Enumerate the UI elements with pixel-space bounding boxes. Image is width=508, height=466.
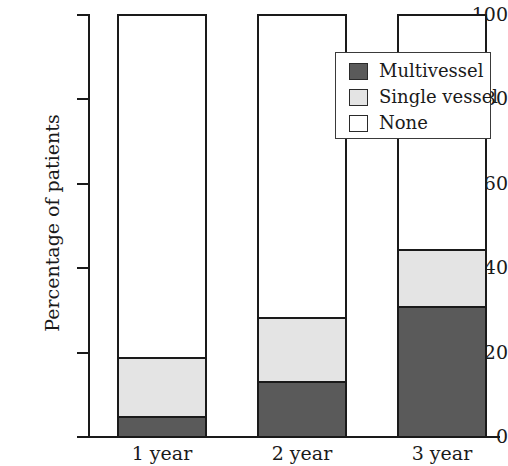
segment-multivessel-3-year <box>399 306 485 436</box>
y-tick-20 <box>77 352 88 354</box>
x-label-2-year: 2 year <box>242 444 362 463</box>
segment-multivessel-1-year <box>119 416 205 436</box>
y-axis-title: Percentage of patients <box>41 73 63 373</box>
legend: Multivessel Single vessel None <box>335 52 491 139</box>
y-tick-60 <box>77 183 88 185</box>
legend-swatch-single-vessel-icon <box>349 89 368 106</box>
legend-item-none: None <box>349 110 490 136</box>
y-tick-100 <box>77 14 88 16</box>
legend-swatch-multivessel-icon <box>349 63 368 80</box>
x-label-3-year: 3 year <box>382 444 502 463</box>
legend-swatch-none-icon <box>349 115 368 132</box>
legend-label-single-vessel: Single vessel <box>379 88 498 106</box>
bar-2-year <box>257 14 347 438</box>
segment-multivessel-2-year <box>259 381 345 436</box>
bar-1-year <box>117 14 207 438</box>
y-tick-80 <box>77 98 88 100</box>
legend-label-multivessel: Multivessel <box>379 62 483 80</box>
legend-item-multivessel: Multivessel <box>349 58 490 84</box>
y-axis-line <box>88 14 90 438</box>
y-tick-40 <box>77 267 88 269</box>
legend-item-single-vessel: Single vessel <box>349 84 490 110</box>
x-label-1-year: 1 year <box>102 444 222 463</box>
y-tick-0 <box>77 436 88 438</box>
legend-label-none: None <box>379 114 428 132</box>
chart-figure: Percentage of patients 100 80 60 40 20 0… <box>0 0 508 466</box>
